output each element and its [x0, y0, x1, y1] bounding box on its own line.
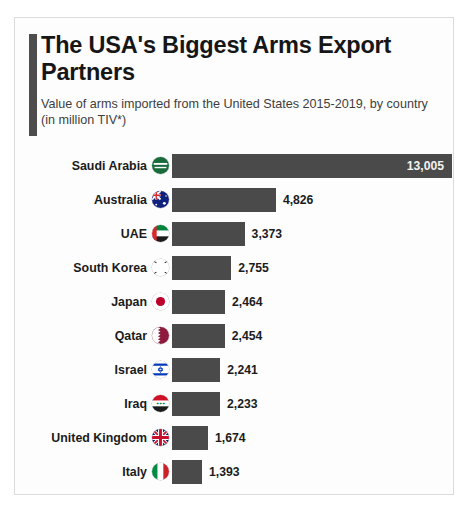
flag-south-korea-icon — [152, 259, 169, 276]
bar-value-label: 2,454 — [225, 329, 263, 343]
bar-value-label: 2,755 — [231, 261, 269, 275]
bar-fill — [172, 188, 276, 212]
flag-saudi-arabia-icon — [152, 157, 169, 174]
bar-value-label: 1,393 — [202, 465, 240, 479]
bar-value-label: 1,674 — [208, 431, 246, 445]
bar-fill — [172, 290, 225, 314]
bar-row: Australia4,826 — [15, 183, 453, 217]
bar-row: Italy1,393 — [15, 455, 453, 489]
bar-track: 2,241 — [172, 358, 453, 382]
bar-value-label: 3,373 — [245, 227, 283, 241]
bar-fill — [172, 392, 220, 416]
flag-japan-icon — [152, 293, 169, 310]
bar-row: South Korea2,755 — [15, 251, 453, 285]
flag-iraq-icon: ✦✦✦ — [152, 395, 169, 412]
bar-chart: Saudi Arabia13,005Australia4,826UAE3,373… — [15, 149, 453, 489]
bar-fill — [172, 222, 245, 246]
bar-category-label: Saudi Arabia — [15, 159, 150, 173]
infographic-card: The USA's Biggest Arms Export Partners V… — [14, 17, 454, 495]
flag-uae-icon — [152, 225, 169, 242]
title-accent-bar — [29, 34, 37, 136]
bar-category-label: Japan — [15, 295, 150, 309]
flag-italy-icon — [152, 463, 169, 480]
bar-track: 3,373 — [172, 222, 453, 246]
bar-track: 2,464 — [172, 290, 453, 314]
bar-category-label: UAE — [15, 227, 150, 241]
flag-qatar-icon — [152, 327, 169, 344]
bar-category-label: Qatar — [15, 329, 150, 343]
bar-row: UAE3,373 — [15, 217, 453, 251]
flag-israel-icon — [152, 361, 169, 378]
bar-row: Iraq✦✦✦2,233 — [15, 387, 453, 421]
bar-value-label: 4,826 — [276, 193, 314, 207]
bar-category-label: Iraq — [15, 397, 150, 411]
bar-track: 2,755 — [172, 256, 453, 280]
bar-value-label: 13,005 — [407, 159, 452, 173]
bar-fill — [172, 358, 220, 382]
bar-row: Israel2,241 — [15, 353, 453, 387]
bar-track: 1,674 — [172, 426, 453, 450]
bar-track: 2,454 — [172, 324, 453, 348]
header-block: The USA's Biggest Arms Export Partners V… — [15, 18, 453, 135]
bar-fill — [172, 426, 208, 450]
bar-category-label: United Kingdom — [15, 431, 150, 445]
bar-fill — [172, 460, 202, 484]
flag-australia-icon — [152, 191, 169, 208]
bar-track: 4,826 — [172, 188, 453, 212]
bar-row: Japan2,464 — [15, 285, 453, 319]
bar-fill — [172, 256, 231, 280]
bar-track: 1,393 — [172, 460, 453, 484]
bar-value-label: 2,241 — [220, 363, 258, 377]
page-title: The USA's Biggest Arms Export Partners — [41, 32, 437, 87]
bar-category-label: South Korea — [15, 261, 150, 275]
bar-category-label: Italy — [15, 465, 150, 479]
bar-track: 13,005 — [172, 154, 453, 178]
bar-category-label: Israel — [15, 363, 150, 377]
bar-row: Saudi Arabia13,005 — [15, 149, 453, 183]
bar-fill — [172, 324, 225, 348]
bar-category-label: Australia — [15, 193, 150, 207]
bar-fill: 13,005 — [172, 154, 452, 178]
bar-value-label: 2,464 — [225, 295, 263, 309]
chart-subtitle: Value of arms imported from the United S… — [41, 96, 437, 129]
bar-row: Qatar2,454 — [15, 319, 453, 353]
bar-row: United Kingdom1,674 — [15, 421, 453, 455]
bar-value-label: 2,233 — [220, 397, 258, 411]
svg-text:✦✦✦: ✦✦✦ — [156, 401, 166, 406]
flag-united-kingdom-icon — [152, 429, 169, 446]
bar-track: 2,233 — [172, 392, 453, 416]
